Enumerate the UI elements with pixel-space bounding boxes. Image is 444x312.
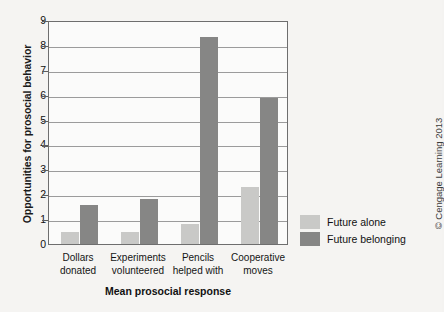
gridline	[49, 171, 287, 172]
bar	[181, 224, 199, 244]
y-axis-tick-label: 2	[20, 188, 46, 200]
bar	[241, 187, 259, 244]
x-axis-title: Mean prosocial response	[48, 285, 288, 297]
gridline	[49, 97, 287, 98]
bar	[140, 199, 158, 244]
x-axis-category-label-line: Cooperative	[220, 252, 296, 265]
y-axis-tick-label: 9	[20, 14, 46, 26]
y-axis-tick-label: 5	[20, 114, 46, 126]
gridline	[49, 47, 287, 48]
gridline	[49, 146, 287, 147]
bar	[260, 98, 278, 244]
legend-swatch	[300, 232, 320, 246]
legend-item: Future alone	[300, 213, 418, 230]
y-axis-tick-label: 8	[20, 39, 46, 51]
y-axis-tick-label: 6	[20, 89, 46, 101]
legend-label: Future alone	[327, 216, 386, 228]
legend-label: Future belonging	[327, 233, 406, 245]
chart-legend: Future aloneFuture belonging	[300, 213, 418, 247]
y-axis-tick-label: 4	[20, 138, 46, 150]
plot-area	[48, 21, 288, 245]
bar	[61, 232, 79, 244]
legend-swatch	[300, 215, 320, 229]
bar	[80, 205, 98, 244]
gridline	[49, 72, 287, 73]
y-axis-tick-label: 0	[20, 238, 46, 250]
copyright-notice: © Cengage Learning 2013	[433, 89, 444, 259]
x-axis-category-label: Cooperativemoves	[220, 252, 296, 277]
y-axis-tick-label: 1	[20, 213, 46, 225]
bar	[200, 37, 218, 244]
y-axis-tick-label: 7	[20, 64, 46, 76]
x-axis-category-label-line: moves	[220, 265, 296, 278]
bar	[121, 232, 139, 244]
y-axis-tick-label: 3	[20, 163, 46, 175]
gridline	[49, 122, 287, 123]
legend-item: Future belonging	[300, 230, 418, 247]
